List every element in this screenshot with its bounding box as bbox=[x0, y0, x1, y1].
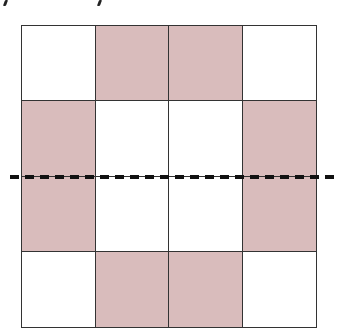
grid-cell-shaded bbox=[243, 101, 317, 176]
grid-cell-unshaded bbox=[96, 101, 170, 176]
grid-cell-shaded bbox=[22, 101, 96, 176]
grid-cell-shaded bbox=[22, 177, 96, 252]
grid-cell-shaded bbox=[96, 252, 170, 327]
grid-cell-unshaded bbox=[243, 252, 317, 327]
grid-cell-unshaded bbox=[243, 26, 317, 101]
grid-cell-shaded bbox=[243, 177, 317, 252]
grid-cell-unshaded bbox=[22, 26, 96, 101]
cropped-text-fragment bbox=[3, 0, 8, 6]
dashed-fold-line bbox=[10, 175, 334, 179]
cropped-text-fragment bbox=[97, 0, 102, 6]
grid-cell-unshaded bbox=[22, 252, 96, 327]
grid-cell-unshaded bbox=[169, 101, 243, 176]
grid-cell-shaded bbox=[169, 252, 243, 327]
grid-cell-shaded bbox=[169, 26, 243, 101]
grid-cell-unshaded bbox=[96, 177, 170, 252]
grid-cell-shaded bbox=[96, 26, 170, 101]
grid-cell-unshaded bbox=[169, 177, 243, 252]
